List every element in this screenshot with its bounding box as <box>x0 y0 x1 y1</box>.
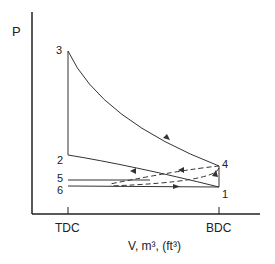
bdc-label: BDC <box>206 221 232 235</box>
tdc-label: TDC <box>55 221 80 235</box>
point-5-label: 5 <box>57 172 63 184</box>
arrow-3-4 <box>163 134 170 140</box>
exhaust-dashed-upper <box>110 166 219 184</box>
process-3-4 <box>68 51 219 166</box>
pv-diagram: P 3 2 5 6 4 1 TDC BDC V, m³, (ft³) <box>0 0 275 264</box>
y-axis-label: P <box>12 24 21 39</box>
point-2-label: 2 <box>57 154 63 166</box>
arrow-dashed-upper <box>178 167 184 173</box>
x-axis-label: V, m³, (ft³) <box>128 239 181 253</box>
point-3-label: 3 <box>56 44 62 56</box>
point-6-label: 6 <box>57 184 63 196</box>
point-4-label: 4 <box>222 158 228 170</box>
process-6-1 <box>68 186 219 187</box>
point-1-label: 1 <box>222 188 228 200</box>
arrow-6-1 <box>173 184 180 189</box>
process-1-2 <box>68 155 219 187</box>
arrow-1-2 <box>130 168 136 174</box>
